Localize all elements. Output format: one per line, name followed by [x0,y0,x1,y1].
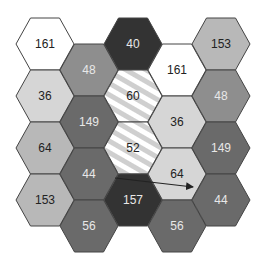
hex-value-label: 64 [170,167,184,181]
hex-value-label: 153 [35,193,55,207]
hex-value-label: 48 [82,63,96,77]
hex-value-label: 149 [79,115,99,129]
hex-value-label: 60 [126,89,140,103]
hex-value-label: 36 [38,89,52,103]
hex-value-label: 40 [126,37,140,51]
hex-layer: 1613664153481494456406052157161366456153… [16,18,250,252]
hex-value-label: 161 [167,63,187,77]
hex-value-label: 56 [82,219,96,233]
hex-value-label: 36 [170,115,184,129]
hex-grid-diagram: 1613664153481494456406052157161366456153… [0,0,265,265]
hex-value-label: 157 [123,193,143,207]
hex-value-label: 44 [214,193,228,207]
hex-value-label: 44 [82,167,96,181]
hex-value-label: 48 [214,89,228,103]
hex-value-label: 52 [126,141,140,155]
hex-value-label: 64 [38,141,52,155]
hex-value-label: 161 [35,37,55,51]
hex-value-label: 56 [170,219,184,233]
hex-value-label: 149 [211,141,231,155]
hex-value-label: 153 [211,37,231,51]
